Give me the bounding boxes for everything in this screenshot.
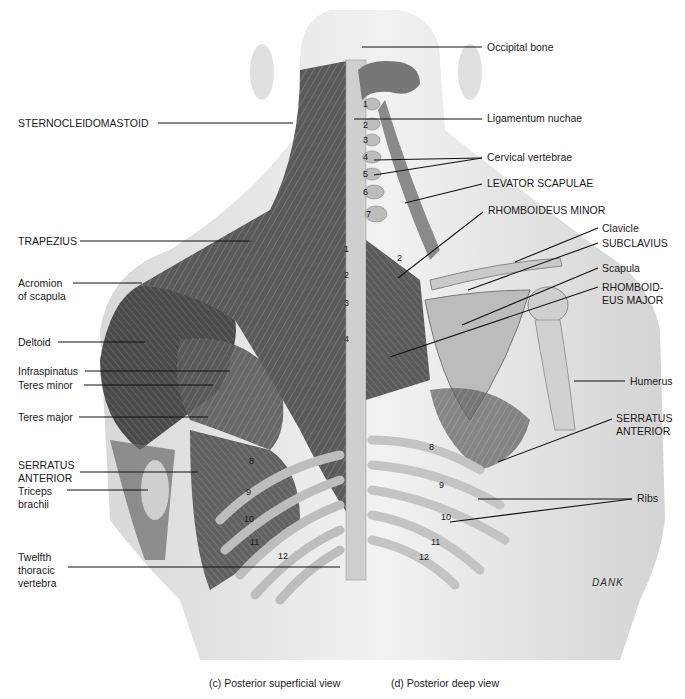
label-acromion: Acromion of scapula <box>18 277 66 303</box>
label-serratus-anterior-right: SERRATUS ANTERIOR <box>616 412 672 438</box>
anatomy-figure: 1 2 3 4 5 6 7 1 2 3 4 2 8 9 10 11 12 8 9… <box>0 0 685 699</box>
label-scapula: Scapula <box>602 262 640 275</box>
rib-number: 9 <box>439 479 444 492</box>
label-occipital-bone: Occipital bone <box>487 41 554 54</box>
rib-number: 10 <box>244 513 254 526</box>
label-infraspinatus: Infraspinatus <box>18 365 78 378</box>
rib-number: 11 <box>431 536 440 549</box>
label-triceps-brachii: Triceps brachii <box>18 485 52 511</box>
thoracic-number: 2 <box>344 269 349 282</box>
cervical-number: 3 <box>363 134 368 147</box>
label-rhomboideus-minor: RHOMBOIDEUS MINOR <box>488 204 605 217</box>
cervical-number: 1 <box>363 98 368 111</box>
rib-number: 10 <box>441 511 451 524</box>
label-trapezius: TRAPEZIUS <box>18 235 77 248</box>
cervical-number: 7 <box>366 208 371 221</box>
cervical-number: 5 <box>363 168 368 181</box>
rib-number: 12 <box>419 551 429 564</box>
thoracic-number: 3 <box>344 297 349 310</box>
cervical-number: 2 <box>363 119 368 132</box>
rib-number: 11 <box>250 536 259 549</box>
label-serratus-anterior-left: SERRATUS ANTERIOR <box>18 459 74 485</box>
label-levator-scapulae: LEVATOR SCAPULAE <box>487 177 593 190</box>
label-rhomboideus-major: RHOMBOID- EUS MAJOR <box>602 281 663 307</box>
thoracic-number: 4 <box>344 333 349 346</box>
label-teres-major: Teres major <box>18 411 73 424</box>
rib-number: 12 <box>278 550 288 563</box>
thoracic-number: 1 <box>344 243 349 256</box>
anatomy-illustration <box>0 0 685 699</box>
rib-number: 9 <box>246 486 251 499</box>
label-subclavius: SUBCLAVIUS <box>602 237 668 250</box>
label-clavicle: Clavicle <box>602 222 639 235</box>
label-ribs: Ribs <box>637 492 658 505</box>
label-humerus: Humerus <box>630 375 673 388</box>
label-cervical-vertebrae: Cervical vertebrae <box>487 151 572 164</box>
cervical-number: 4 <box>363 151 368 164</box>
artist-signature: DANK <box>592 577 624 588</box>
rib-number: 8 <box>429 441 434 454</box>
cervical-number: 6 <box>363 186 368 199</box>
caption-superficial-view: (c) Posterior superficial view <box>209 677 340 689</box>
label-sternocleidomastoid: STERNOCLEIDOMASTOID <box>18 117 149 130</box>
label-deltoid: Deltoid <box>18 336 51 349</box>
deep-rib-number: 2 <box>397 252 402 265</box>
label-twelfth-thoracic-vertebra: Twelfth thoracic vertebra <box>18 551 57 590</box>
label-teres-minor: Teres minor <box>18 379 73 392</box>
label-ligamentum-nuchae: Ligamentum nuchae <box>487 112 582 125</box>
caption-deep-view: (d) Posterior deep view <box>391 677 499 689</box>
rib-number: 8 <box>249 455 254 468</box>
